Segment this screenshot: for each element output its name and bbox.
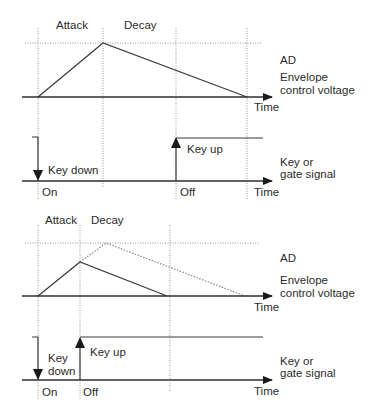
full-envelope-reference (80, 243, 245, 296)
gate-title-2: gate signal (280, 168, 336, 180)
off-label: Off (83, 386, 99, 398)
gate-time-label: Time (254, 385, 279, 397)
envelope-title: AD (280, 252, 296, 264)
top-panel: Attack Decay AD Envelope control voltage… (22, 19, 355, 200)
key-up-label: Key up (187, 143, 223, 155)
on-label: On (42, 386, 57, 398)
envelope-subtitle-1: Envelope (280, 71, 328, 83)
envelope-subtitle-1: Envelope (280, 274, 328, 286)
envelope-time-label: Time (254, 101, 279, 113)
attack-label: Attack (56, 19, 88, 31)
gate-time-label: Time (254, 186, 279, 198)
key-down-stem (32, 337, 38, 371)
envelope-subtitle-2: control voltage (280, 287, 355, 299)
key-up-arrow-icon (171, 137, 181, 148)
key-down-arrow-icon (33, 170, 43, 181)
envelope-time-label: Time (254, 301, 279, 313)
gate-title-1: Key or (280, 156, 313, 168)
envelope-curve (38, 43, 247, 97)
envelope-title: AD (280, 54, 296, 66)
decay-label: Decay (91, 214, 124, 226)
gate-title-1: Key or (280, 355, 313, 367)
key-down-arrow-icon (33, 369, 43, 380)
key-down-label-2: down (48, 365, 76, 377)
key-up-label: Key up (90, 346, 126, 358)
envelope-subtitle-2: control voltage (280, 84, 355, 96)
ad-envelope-diagram: Attack Decay AD Envelope control voltage… (0, 0, 371, 418)
decay-label: Decay (124, 19, 157, 31)
key-up-arrow-icon (75, 337, 85, 348)
off-label: Off (180, 186, 196, 198)
gate-title-2: gate signal (280, 367, 336, 379)
key-down-stem (32, 137, 38, 172)
key-down-label: Key down (48, 164, 99, 176)
key-down-label-1: Key (48, 352, 68, 364)
attack-label: Attack (45, 214, 77, 226)
on-label: On (42, 186, 57, 198)
bottom-panel: Attack Decay AD Envelope control voltage… (22, 214, 355, 400)
envelope-curve (38, 262, 167, 296)
